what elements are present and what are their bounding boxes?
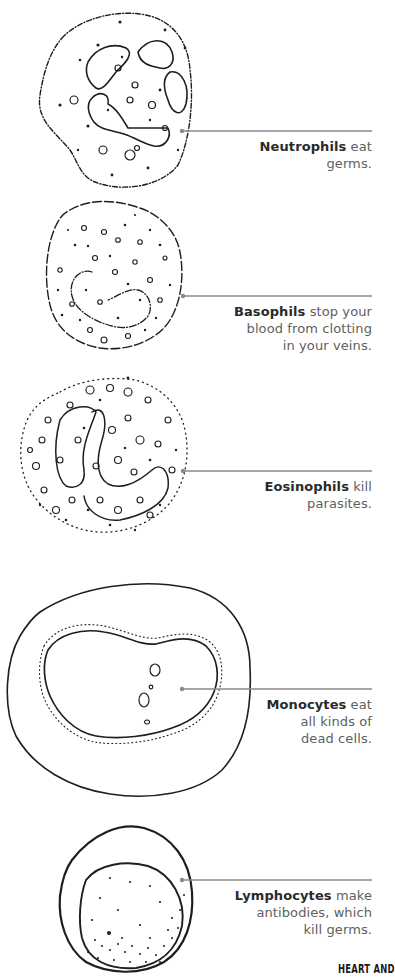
monocyte-caption: Monocytes eat all kinds of dead cells. — [266, 696, 372, 747]
caption-text: kill — [349, 479, 372, 494]
caption-text: dead cells. — [301, 731, 372, 746]
monocyte-leader-line — [180, 687, 372, 691]
caption-text: stop your — [305, 304, 372, 319]
neutrophil-leader-line — [180, 129, 372, 133]
basophil-caption: Basophils stop your blood from clotting … — [234, 303, 372, 354]
lymphocyte-caption: Lymphocytes make antibodies, which kill … — [235, 887, 372, 938]
caption-text: in your veins. — [283, 338, 372, 353]
eosinophil-leader-line — [181, 469, 372, 473]
basophil-cell-icon — [47, 202, 182, 349]
cell-name: Lymphocytes — [235, 888, 332, 903]
cell-name: Monocytes — [266, 697, 346, 712]
lymphocyte-leader-line — [180, 878, 372, 882]
eosinophil-caption: Eosinophils kill parasites. — [264, 478, 372, 512]
running-footer-title: HEART AND — [338, 962, 395, 976]
neutrophil-cell-icon — [39, 13, 191, 187]
cell-name: Eosinophils — [264, 479, 349, 494]
cell-name: Basophils — [234, 304, 305, 319]
monocyte-cell-icon — [7, 584, 250, 796]
lymphocyte-cell-icon — [60, 826, 193, 971]
neutrophil-caption: Neutrophils eat germs. — [260, 138, 372, 172]
caption-text: parasites. — [307, 496, 372, 511]
caption-text: all kinds of — [300, 714, 372, 729]
caption-text: blood from clotting — [247, 321, 372, 336]
caption-text: antibodies, which — [256, 905, 372, 920]
caption-text: eat — [346, 139, 372, 154]
eosinophil-cell-icon — [21, 377, 187, 533]
basophil-leader-line — [181, 294, 372, 298]
caption-text: make — [332, 888, 372, 903]
caption-text: germs. — [326, 156, 372, 171]
caption-text: kill germs. — [303, 922, 372, 937]
cell-name: Neutrophils — [260, 139, 347, 154]
caption-text: eat — [346, 697, 372, 712]
